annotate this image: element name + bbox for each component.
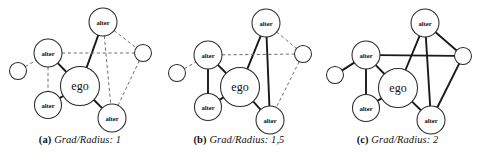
edge-top-ego-solid	[405, 36, 419, 70]
node-alter-left: alter	[34, 39, 62, 67]
graph-a: alteralteregoalteralter	[0, 0, 160, 135]
edge-top-bottomR-dashed	[104, 36, 110, 104]
edge-left-ego-solid	[376, 65, 385, 74]
node-circle	[455, 48, 472, 65]
edge-top-bottomR-solid	[426, 37, 430, 106]
node-label-top: alter	[96, 19, 109, 26]
node-alter-bottomL: alter	[195, 94, 222, 121]
caption-c-text: Grad/Radius: 2	[371, 134, 438, 145]
node-circle	[135, 45, 152, 62]
edge-smallR-bottomR-solid	[437, 64, 459, 108]
edge-top-smallR-dashed	[114, 31, 136, 48]
figure-ego-networks: alteralteregoalteralter (a) Grad/Radius:…	[0, 0, 477, 162]
node-alter-top: alter	[89, 8, 117, 36]
node-circle	[327, 67, 344, 84]
node-label-bottomL: alter	[41, 102, 54, 109]
node-label-top: alter	[259, 20, 272, 27]
edge-top-bottomR-solid	[267, 37, 270, 106]
node-alter-top: alter	[411, 9, 439, 37]
node-label-ego: ego	[71, 79, 88, 93]
node-label-bottomL: alter	[359, 105, 372, 112]
node-label-top: alter	[418, 20, 431, 27]
panel-b: alteralteregoalteralter (b) Grad/Radius:…	[158, 0, 320, 162]
caption-b-letter: (b)	[194, 134, 207, 145]
caption-b: (b) Grad/Radius: 1,5	[158, 134, 320, 145]
node-alter-left: alter	[194, 41, 222, 69]
node-plain-smallL	[169, 65, 186, 82]
node-label-ego: ego	[231, 80, 248, 94]
edge-left-smallR-solid	[380, 55, 455, 56]
edge-ego-bottomR-solid	[94, 100, 102, 108]
edge-smallL-left-dashed	[184, 62, 196, 69]
node-circle	[295, 46, 312, 63]
edge-ego-bottomR-solid	[412, 102, 421, 111]
node-label-bottomR: alter	[263, 117, 276, 124]
edge-left-ego-solid	[218, 65, 226, 73]
node-alter-left: alter	[352, 41, 380, 69]
node-plain-smallR	[295, 46, 312, 63]
graph-c: alteralteregoalteralter	[318, 0, 477, 135]
caption-c-letter: (c)	[357, 134, 369, 145]
node-label-left: alter	[41, 50, 54, 57]
caption-b-text: Grad/Radius: 1,5	[209, 134, 284, 145]
node-label-left: alter	[201, 52, 214, 59]
node-alter-bottomR: alter	[417, 106, 445, 134]
caption-a-letter: (a)	[39, 134, 52, 145]
caption-a-text: Grad/Radius: 1	[54, 134, 121, 145]
edge-smallL-left-solid	[342, 63, 354, 71]
node-label-left: alter	[359, 52, 372, 59]
edge-left-ego-solid	[58, 63, 67, 72]
node-ego-ego: ego	[221, 68, 260, 107]
node-circle	[169, 65, 186, 82]
edge-left-smallR-dashed	[222, 54, 295, 55]
edge-ego-bottomL-solid	[219, 97, 223, 100]
node-layer: alteralteregoalteralter	[327, 9, 472, 134]
edge-smallL-left-dashed	[25, 60, 36, 66]
node-ego-ego: ego	[61, 67, 100, 106]
node-plain-smallR	[455, 48, 472, 65]
node-plain-smallL	[327, 67, 344, 84]
panel-c: alteralteregoalteralter (c) Grad/Radius:…	[318, 0, 477, 162]
edge-top-ego-solid	[247, 36, 260, 69]
caption-a: (a) Grad/Radius: 1	[0, 134, 160, 145]
node-alter-top: alter	[252, 9, 280, 37]
node-alter-bottomR: alter	[256, 106, 284, 134]
node-label-bottomR: alter	[105, 115, 118, 122]
edge-top-ego-solid	[87, 35, 99, 67]
node-label-bottomR: alter	[424, 117, 437, 124]
node-alter-bottomL: alter	[35, 92, 62, 119]
node-ego-ego: ego	[379, 69, 418, 108]
node-plain-smallL	[10, 63, 27, 80]
edge-top-smallR-solid	[436, 32, 457, 50]
edge-smallR-bottomR-dashed	[118, 61, 139, 106]
node-label-ego: ego	[389, 81, 406, 95]
node-plain-smallR	[135, 45, 152, 62]
node-layer: alteralteregoalteralter	[10, 8, 152, 132]
panel-a: alteralteregoalteralter (a) Grad/Radius:…	[0, 0, 160, 162]
node-alter-bottomR: alter	[98, 104, 126, 132]
edge-smallR-bottomR-dashed	[276, 62, 299, 108]
edge-ego-bottomL-solid	[60, 96, 64, 98]
edge-ego-bottomR-solid	[253, 101, 260, 109]
node-alter-bottomL: alter	[353, 95, 380, 122]
node-circle	[10, 63, 27, 80]
edge-ego-bottomL-solid	[377, 98, 381, 101]
graph-b: alteralteregoalteralter	[158, 0, 320, 135]
edge-top-smallR-dashed	[277, 32, 297, 49]
node-layer: alteralteregoalteralter	[169, 9, 312, 134]
node-label-bottomL: alter	[201, 104, 214, 111]
caption-c: (c) Grad/Radius: 2	[318, 134, 477, 145]
